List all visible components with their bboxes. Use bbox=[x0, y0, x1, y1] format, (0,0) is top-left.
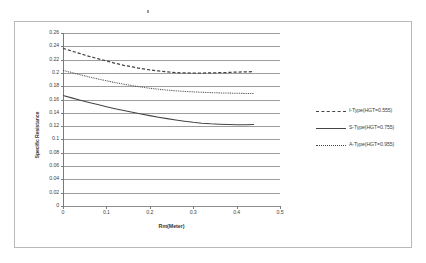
x-tick-mark bbox=[280, 206, 281, 209]
gridline bbox=[63, 206, 280, 207]
x-tick-mark bbox=[106, 206, 107, 209]
series-line-i-type bbox=[63, 48, 254, 73]
y-tick-label: 0.1 bbox=[52, 137, 59, 142]
x-tick-mark bbox=[237, 206, 238, 209]
y-tick-label: 0.22 bbox=[49, 57, 59, 62]
y-tick-label: 0.24 bbox=[49, 44, 59, 49]
legend-swatch-dashed-icon bbox=[316, 107, 346, 114]
y-tick-label: 0.06 bbox=[49, 163, 59, 168]
legend-label-i-type: I-Type(HGT=0.555) bbox=[349, 108, 392, 113]
series-line-s-type bbox=[63, 96, 254, 125]
y-tick-label: 0.02 bbox=[49, 190, 59, 195]
legend-item-s-type: S-Type(HGT=0.755) bbox=[316, 119, 420, 136]
x-tick-label: 0.3 bbox=[190, 210, 197, 215]
y-tick-label: 0.14 bbox=[49, 110, 59, 115]
y-tick-label: 0.12 bbox=[49, 124, 59, 129]
x-tick-mark bbox=[150, 206, 151, 209]
y-tick-label: 0.18 bbox=[49, 84, 59, 89]
series-plot bbox=[63, 33, 280, 206]
x-tick-label: 0.1 bbox=[103, 210, 110, 215]
chart-legend: I-Type(HGT=0.555) S-Type(HGT=0.755) A-Ty… bbox=[316, 102, 420, 153]
legend-label-s-type: S-Type(HGT=0.755) bbox=[349, 125, 394, 130]
y-axis-title: Specific Resistance bbox=[34, 111, 40, 158]
x-axis-title: Rm(Meter) bbox=[63, 223, 280, 229]
x-tick-label: 0 bbox=[62, 210, 65, 215]
scan-artifact-dot bbox=[147, 10, 149, 13]
legend-item-i-type: I-Type(HGT=0.555) bbox=[316, 102, 420, 119]
x-tick-mark bbox=[193, 206, 194, 209]
legend-swatch-dotted-icon bbox=[316, 141, 346, 148]
legend-swatch-solid-icon bbox=[316, 124, 346, 131]
plot-area: 00.020.040.060.080.10.120.140.160.180.20… bbox=[63, 33, 280, 206]
legend-label-a-type: A-Type(HGT=0.955) bbox=[349, 142, 394, 147]
chart-frame: Specific Resistance 00.020.040.060.080.1… bbox=[14, 21, 412, 248]
series-line-a-type bbox=[63, 70, 254, 93]
y-tick-label: 0.16 bbox=[49, 97, 59, 102]
y-tick-label: 0 bbox=[56, 203, 59, 208]
x-tick-label: 0.4 bbox=[233, 210, 240, 215]
x-tick-label: 0.5 bbox=[277, 210, 284, 215]
legend-item-a-type: A-Type(HGT=0.955) bbox=[316, 136, 420, 153]
y-tick-label: 0.26 bbox=[49, 30, 59, 35]
y-tick-label: 0.2 bbox=[52, 70, 59, 75]
y-tick-label: 0.08 bbox=[49, 150, 59, 155]
x-tick-label: 0.2 bbox=[146, 210, 153, 215]
x-tick-mark bbox=[63, 206, 64, 209]
y-tick-label: 0.04 bbox=[49, 177, 59, 182]
